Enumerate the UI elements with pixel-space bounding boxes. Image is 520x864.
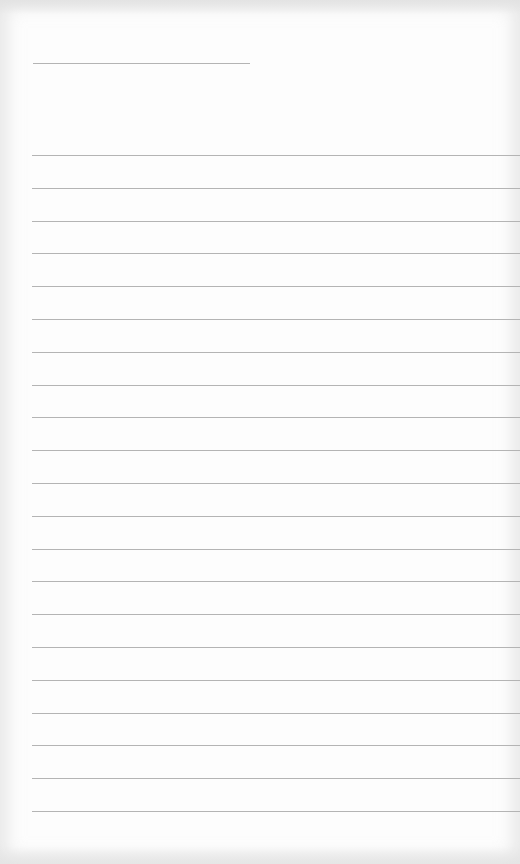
ruled-line: [32, 614, 520, 615]
ruled-line: [32, 286, 520, 287]
lined-paper-sheet: [0, 0, 520, 864]
ruled-line: [32, 745, 520, 746]
header-name-line: [33, 63, 250, 64]
ruled-line: [32, 417, 520, 418]
ruled-line: [32, 647, 520, 648]
ruled-line: [32, 319, 520, 320]
ruled-line: [32, 778, 520, 779]
ruled-line: [32, 188, 520, 189]
ruled-line: [32, 549, 520, 550]
ruled-line: [32, 581, 520, 582]
ruled-line: [32, 483, 520, 484]
ruled-line: [32, 253, 520, 254]
ruled-line: [32, 221, 520, 222]
ruled-line: [32, 811, 520, 812]
ruled-line: [32, 450, 520, 451]
ruled-line: [32, 385, 520, 386]
ruled-line: [32, 155, 520, 156]
ruled-line: [32, 713, 520, 714]
ruled-line: [32, 680, 520, 681]
ruled-line: [32, 352, 520, 353]
ruled-line: [32, 516, 520, 517]
